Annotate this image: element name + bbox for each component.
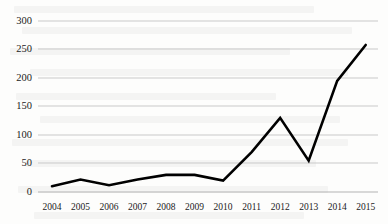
y-tick-label-100: 100 bbox=[2, 130, 32, 141]
y-tick-label-300: 300 bbox=[2, 16, 32, 27]
y-tick-label-0: 0 bbox=[2, 187, 32, 198]
y-tick-label-150: 150 bbox=[2, 101, 32, 112]
data-line-series-1 bbox=[52, 45, 366, 186]
x-tick-label-2015: 2015 bbox=[349, 203, 383, 213]
y-tick-label-50: 50 bbox=[2, 158, 32, 169]
y-tick-label-250: 250 bbox=[2, 44, 32, 55]
gridlines bbox=[38, 21, 378, 163]
y-tick-label-200: 200 bbox=[2, 73, 32, 84]
plot-area bbox=[0, 0, 388, 224]
chart-figure: 300 250 200 150 100 50 0 2004 2005 2006 … bbox=[0, 0, 388, 224]
